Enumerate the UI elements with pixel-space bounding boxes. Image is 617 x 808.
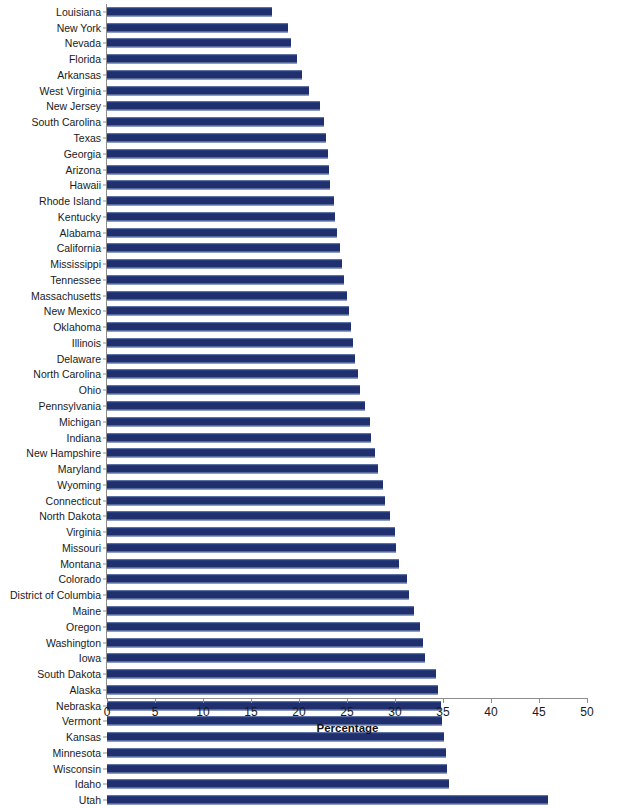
bar-row: North Carolina <box>107 367 587 383</box>
bar <box>107 165 329 174</box>
bar-category-label: Washington <box>46 637 101 648</box>
bar-row: Tennessee <box>107 272 587 288</box>
x-tick-label: 30 <box>388 705 401 719</box>
bar-row: Michigan <box>107 414 587 430</box>
bar-series: LouisianaNew YorkNevadaFloridaArkansasWe… <box>107 4 587 808</box>
bar <box>107 338 353 347</box>
x-tick-mark <box>395 698 396 703</box>
x-tick-label: 35 <box>436 705 449 719</box>
bar-category-label: Iowa <box>79 653 101 664</box>
bar-category-label: Connecticut <box>46 495 101 506</box>
bar-category-label: Utah <box>79 795 101 806</box>
bar-category-label: Alabama <box>60 227 101 238</box>
bar <box>107 543 396 552</box>
bar-category-label: Rhode Island <box>39 196 101 207</box>
bar-category-label: Maryland <box>58 464 101 475</box>
bar <box>107 228 337 237</box>
bar-category-label: Delaware <box>57 353 101 364</box>
bar-category-label: Arkansas <box>57 69 101 80</box>
bar-category-label: Kentucky <box>58 211 101 222</box>
bar-row: Missouri <box>107 540 587 556</box>
bar-category-label: Nebraska <box>56 700 101 711</box>
x-axis-title: Percentage <box>107 722 588 734</box>
x-tick-label: 10 <box>196 705 209 719</box>
bar-category-label: Illinois <box>72 337 101 348</box>
bar <box>107 417 370 426</box>
bar-category-label: Texas <box>74 133 101 144</box>
bar-category-label: Tennessee <box>50 274 101 285</box>
bar <box>107 528 395 537</box>
bar <box>107 39 291 48</box>
bar-row: Utah <box>107 792 587 808</box>
x-tick-mark <box>491 698 492 703</box>
bar <box>107 496 385 505</box>
bar <box>107 591 409 600</box>
bar <box>107 102 320 111</box>
bar-category-label: Minnesota <box>53 747 101 758</box>
bar-row: Maine <box>107 603 587 619</box>
bar-row: New York <box>107 20 587 36</box>
bar-row: New Hampshire <box>107 445 587 461</box>
bar <box>107 402 365 411</box>
x-tick-label: 0 <box>104 705 111 719</box>
bar <box>107 796 548 805</box>
bar <box>107 260 342 269</box>
x-tick-mark <box>251 698 252 703</box>
bar <box>107 386 360 395</box>
bar-row: District of Columbia <box>107 587 587 603</box>
bar-category-label: Florida <box>69 54 101 65</box>
bar-category-label: Arizona <box>65 164 101 175</box>
bar-category-label: South Dakota <box>37 669 101 680</box>
bar-row: Delaware <box>107 351 587 367</box>
bar-category-label: Hawaii <box>69 180 101 191</box>
bar-row: Alaska <box>107 682 587 698</box>
bar <box>107 370 358 379</box>
x-tick-label: 5 <box>152 705 159 719</box>
x-tick-label: 25 <box>340 705 353 719</box>
bar-row: South Dakota <box>107 666 587 682</box>
bar-category-label: District of Columbia <box>10 590 101 601</box>
bar <box>107 748 446 757</box>
bar <box>107 323 351 332</box>
bar-row: Virginia <box>107 524 587 540</box>
bar-category-label: Massachusetts <box>31 290 101 301</box>
bar <box>107 465 378 474</box>
bar <box>107 275 344 284</box>
bar <box>107 7 272 16</box>
bar-row: Indiana <box>107 430 587 446</box>
bar-category-label: North Dakota <box>39 511 101 522</box>
bar <box>107 181 330 190</box>
x-tick-mark <box>155 698 156 703</box>
x-tick-mark <box>299 698 300 703</box>
x-tick-mark <box>587 698 588 703</box>
bar-row: Iowa <box>107 650 587 666</box>
bar <box>107 433 371 442</box>
bar <box>107 354 355 363</box>
bar-row: Rhode Island <box>107 193 587 209</box>
x-tick-mark <box>539 698 540 703</box>
x-tick-label: 50 <box>580 705 593 719</box>
bar <box>107 670 436 679</box>
bar-row: Pennsylvania <box>107 398 587 414</box>
bar-category-label: Alaska <box>69 684 101 695</box>
bar <box>107 118 324 127</box>
bar-row: New Mexico <box>107 304 587 320</box>
bar-row: Wyoming <box>107 477 587 493</box>
bar <box>107 449 375 458</box>
bar-category-label: Kansas <box>66 732 101 743</box>
bar-row: Mississippi <box>107 256 587 272</box>
x-tick-label: 40 <box>484 705 497 719</box>
bar-row: Washington <box>107 635 587 651</box>
bar-category-label: California <box>57 243 101 254</box>
bar-row: New Jersey <box>107 99 587 115</box>
bar <box>107 212 335 221</box>
bar <box>107 291 347 300</box>
bar <box>107 622 420 631</box>
bar-category-label: Montana <box>60 558 101 569</box>
bar <box>107 559 399 568</box>
bar-category-label: Ohio <box>79 385 101 396</box>
bar-category-label: Louisiana <box>56 6 101 17</box>
x-tick-label: 15 <box>244 705 257 719</box>
bar-category-label: Pennsylvania <box>39 401 101 412</box>
bar-row: Ohio <box>107 382 587 398</box>
